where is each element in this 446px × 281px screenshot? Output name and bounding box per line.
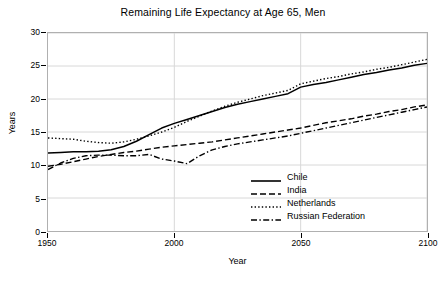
chart-legend: ChileIndiaNetherlandsRussian Federation [249, 168, 369, 224]
x-tick-2000: 2000 [165, 238, 184, 248]
y-tick-15: 15 [14, 127, 40, 137]
x-tick-1950: 1950 [38, 238, 57, 248]
y-tick-10: 10 [14, 160, 40, 170]
legend-line-sample-chile [251, 172, 281, 182]
data-series-lines [48, 33, 427, 231]
y-tick-mark-5 [41, 199, 46, 200]
y-tick-25: 25 [14, 60, 40, 70]
legend-item-russian-federation[interactable]: Russian Federation [251, 209, 365, 222]
x-tick-mark-2000 [174, 233, 175, 238]
y-tick-30: 30 [14, 27, 40, 37]
chart-figure: Remaining Life Expectancy at Age 65, Men… [0, 0, 446, 281]
legend-line-sample-russian-federation [251, 211, 281, 221]
series-line-chile [48, 63, 427, 153]
legend-line-sample-india [251, 185, 281, 195]
y-axis-tick-labels: 051015202530 [8, 32, 40, 232]
y-tick-5: 5 [14, 194, 40, 204]
y-tick-mark-10 [41, 165, 46, 166]
y-tick-mark-15 [41, 132, 46, 133]
legend-item-chile[interactable]: Chile [251, 170, 365, 183]
x-tick-mark-1950 [47, 233, 48, 238]
y-tick-mark-0 [41, 232, 46, 233]
legend-line-sample-netherlands [251, 198, 281, 208]
legend-label: India [287, 185, 307, 195]
y-tick-mark-20 [41, 99, 46, 100]
series-line-india [48, 105, 427, 166]
legend-item-india[interactable]: India [251, 183, 365, 196]
x-tick-mark-2050 [301, 233, 302, 238]
y-tick-mark-25 [41, 65, 46, 66]
legend-label: Russian Federation [287, 211, 365, 221]
legend-item-netherlands[interactable]: Netherlands [251, 196, 365, 209]
y-tick-mark-30 [41, 32, 46, 33]
x-tick-2100: 2100 [419, 238, 438, 248]
x-axis-tick-labels: 1950200020502100 [47, 238, 428, 252]
plot-area [47, 32, 428, 232]
x-tick-2050: 2050 [292, 238, 311, 248]
y-tick-0: 0 [14, 227, 40, 237]
legend-label: Chile [287, 172, 308, 182]
chart-title: Remaining Life Expectancy at Age 65, Men [0, 6, 446, 18]
x-axis-label: Year [47, 256, 428, 266]
x-tick-mark-2100 [428, 233, 429, 238]
series-line-netherlands [48, 59, 427, 143]
y-tick-20: 20 [14, 94, 40, 104]
legend-label: Netherlands [287, 198, 336, 208]
